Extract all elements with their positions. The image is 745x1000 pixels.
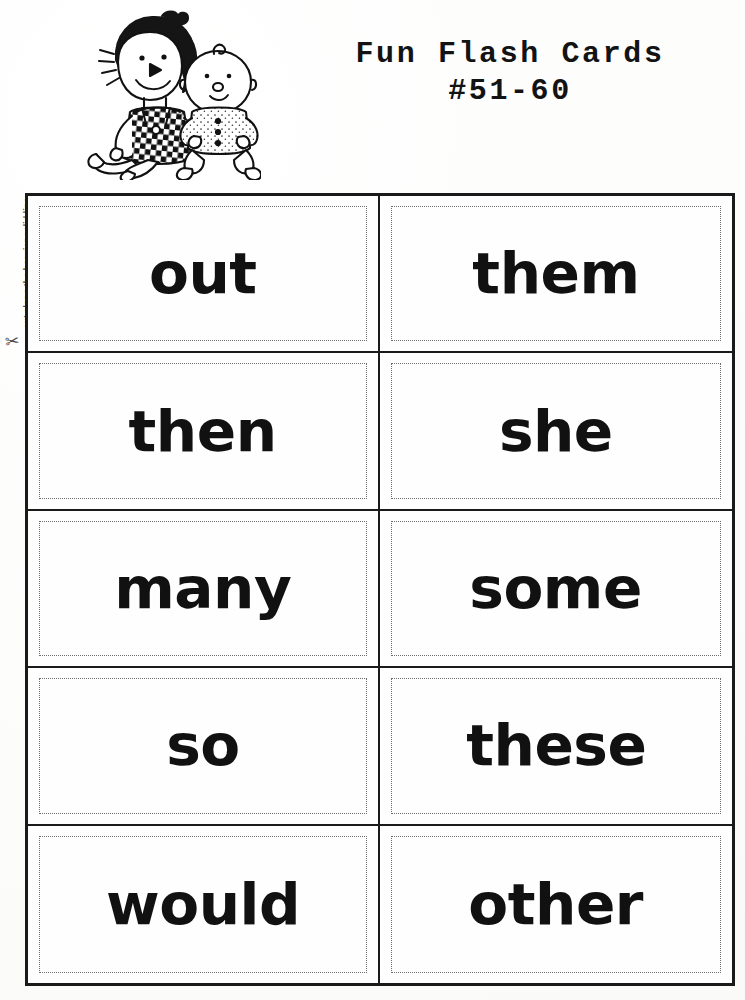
card-cut-outline: she xyxy=(391,363,721,498)
worksheet-page: Fun Flash Cards #51-60 cut along the hea… xyxy=(0,0,745,1000)
card-word: them xyxy=(472,245,639,302)
card-word: many xyxy=(114,560,291,617)
title-line-1: Fun Flash Cards xyxy=(300,36,720,73)
card-word: she xyxy=(499,403,613,460)
card-word: out xyxy=(149,245,257,302)
card-cut-outline: then xyxy=(39,363,367,498)
title-line-2: #51-60 xyxy=(300,73,720,110)
flash-card[interactable]: so xyxy=(28,668,380,825)
card-cut-outline: them xyxy=(391,206,721,341)
card-word: other xyxy=(469,876,644,933)
card-word: then xyxy=(129,403,277,460)
card-cut-outline: so xyxy=(39,678,367,813)
flash-card-grid: out them then she many some xyxy=(25,193,735,986)
card-cut-outline: some xyxy=(391,521,721,656)
flash-card[interactable]: out xyxy=(28,196,380,353)
page-title: Fun Flash Cards #51-60 xyxy=(300,36,720,109)
card-cut-outline: other xyxy=(391,836,721,973)
scissors-icon: ✂ xyxy=(4,332,20,351)
flash-card[interactable]: many xyxy=(28,511,380,668)
card-word: would xyxy=(106,876,300,933)
card-cut-outline: would xyxy=(39,836,367,973)
flash-card[interactable]: would xyxy=(28,826,380,983)
flash-card[interactable]: them xyxy=(380,196,732,353)
girl-with-baby-doll-icon xyxy=(66,8,261,180)
flash-card[interactable]: these xyxy=(380,668,732,825)
flash-card[interactable]: then xyxy=(28,353,380,510)
card-cut-outline: many xyxy=(39,521,367,656)
flash-card[interactable]: she xyxy=(380,353,732,510)
card-word: these xyxy=(466,717,646,774)
flash-card[interactable]: other xyxy=(380,826,732,983)
card-word: some xyxy=(470,560,643,617)
card-word: so xyxy=(166,717,240,774)
page-header: Fun Flash Cards #51-60 xyxy=(0,0,745,190)
card-cut-outline: these xyxy=(391,678,721,813)
flash-card[interactable]: some xyxy=(380,511,732,668)
card-cut-outline: out xyxy=(39,206,367,341)
